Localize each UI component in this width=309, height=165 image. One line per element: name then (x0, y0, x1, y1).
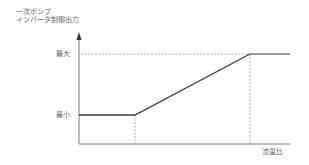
y-axis-arrow-icon (77, 32, 82, 40)
chart-plot (0, 0, 309, 165)
output-curve (79, 54, 250, 115)
